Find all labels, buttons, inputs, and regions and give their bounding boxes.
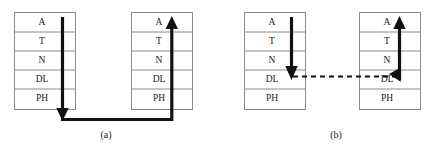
layer-label-application: A bbox=[384, 17, 391, 27]
protocol-stack-figure: A T N DL PH A T N DL PH bbox=[0, 0, 430, 156]
panel-b: A T N DL PH A T N DL PH bbox=[245, 13, 421, 142]
layer-label-network: N bbox=[384, 55, 391, 65]
figure-canvas: A T N DL PH A T N DL PH bbox=[0, 0, 430, 156]
layer-label-transport: T bbox=[39, 36, 45, 46]
panel-b-caption: (b) bbox=[330, 129, 342, 141]
layer-label-network: N bbox=[39, 55, 46, 65]
panel-a-right-stack: A T N DL PH bbox=[132, 13, 193, 110]
layer-label-transport: T bbox=[384, 36, 390, 46]
panel-b-left-stack: A T N DL PH bbox=[245, 13, 306, 110]
layer-label-application: A bbox=[156, 17, 163, 27]
layer-label-physical: PH bbox=[381, 93, 393, 103]
layer-label-application: A bbox=[39, 17, 46, 27]
layer-label-physical: PH bbox=[36, 93, 48, 103]
panel-a: A T N DL PH A T N DL PH bbox=[15, 13, 193, 142]
layer-label-transport: T bbox=[156, 36, 162, 46]
panel-a-caption: (a) bbox=[100, 129, 111, 141]
layer-label-network: N bbox=[156, 55, 163, 65]
layer-label-physical: PH bbox=[153, 93, 165, 103]
layer-label-physical: PH bbox=[266, 93, 278, 103]
layer-label-data-link: DL bbox=[36, 74, 49, 84]
layer-label-transport: T bbox=[269, 36, 275, 46]
panel-a-left-stack: A T N DL PH bbox=[15, 13, 76, 110]
layer-label-data-link: DL bbox=[153, 74, 166, 84]
layer-label-data-link: DL bbox=[266, 74, 279, 84]
layer-label-application: A bbox=[269, 17, 276, 27]
panel-b-right-stack: A T N DL PH bbox=[360, 13, 421, 110]
layer-label-network: N bbox=[269, 55, 276, 65]
